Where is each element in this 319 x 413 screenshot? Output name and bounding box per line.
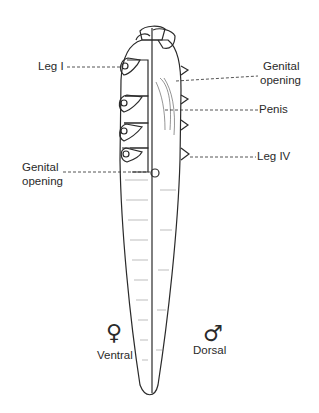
label-penis: Penis — [259, 103, 288, 116]
label-ventral: Ventral — [97, 349, 133, 362]
label-leg-1: Leg I — [38, 60, 64, 73]
female-symbol-icon: ♀ — [106, 322, 122, 344]
male-symbol-icon: ♂ — [203, 323, 223, 345]
label-dorsal: Dorsal — [193, 344, 226, 357]
label-genital-opening-right-line2: opening — [260, 74, 301, 87]
label-genital-opening-right-line1: Genital — [263, 60, 299, 73]
label-genital-opening-left-line2: opening — [22, 175, 63, 188]
label-leg-4: Leg IV — [257, 150, 290, 163]
label-genital-opening-left-line1: Genital — [22, 161, 58, 174]
body-outline — [120, 40, 181, 395]
leader-genital-opening-right — [176, 76, 258, 81]
leg-4-shape — [181, 148, 189, 160]
